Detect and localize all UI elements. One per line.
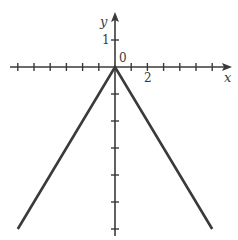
y-tick-label-1: 1 <box>102 33 110 47</box>
chart: x y 0 2 1 <box>0 0 238 240</box>
x-tick-label-2: 2 <box>144 71 152 85</box>
axes <box>10 12 232 236</box>
x-axis-label: x <box>224 70 232 85</box>
origin-label: 0 <box>119 51 127 65</box>
y-axis-label: y <box>99 14 108 29</box>
